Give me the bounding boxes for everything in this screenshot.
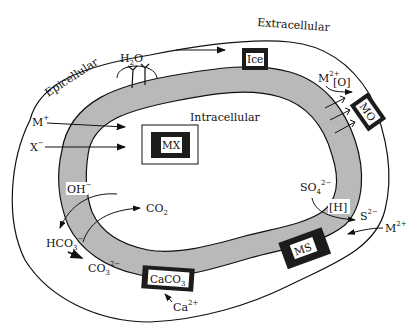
- svg-text:M2+: M2+: [385, 220, 407, 235]
- anion-label: X−: [30, 139, 44, 154]
- caco3-deposit: CaCO3: [141, 265, 194, 292]
- svg-text:HCO3−: HCO3−: [46, 235, 84, 252]
- biomineralization-diagram: Extracellular Epicellular Intracellular …: [0, 0, 420, 333]
- svg-text:MX: MX: [162, 139, 181, 151]
- svg-text:CO32−: CO32−: [88, 260, 120, 277]
- svg-text:S2−: S2−: [360, 208, 378, 223]
- svg-text:[O]: [O]: [333, 76, 351, 89]
- extracellular-label: Extracellular: [257, 16, 331, 34]
- calcium-uptake-arrow: [165, 294, 172, 302]
- mx-deposit: MX: [142, 125, 198, 164]
- cation-label: M+: [32, 114, 49, 129]
- calcium-label: Ca2+: [173, 299, 198, 314]
- svg-text:H2O: H2O: [120, 52, 143, 67]
- intracellular-label: Intracellular: [190, 111, 261, 124]
- svg-text:CO2: CO2: [146, 202, 168, 217]
- epicellular-label: Epicellular: [43, 55, 102, 99]
- svg-text:Ice: Ice: [247, 53, 263, 65]
- svg-text:[H]: [H]: [329, 201, 347, 214]
- ice-deposit: Ice: [242, 48, 268, 70]
- svg-text:SO42−: SO42−: [300, 179, 331, 196]
